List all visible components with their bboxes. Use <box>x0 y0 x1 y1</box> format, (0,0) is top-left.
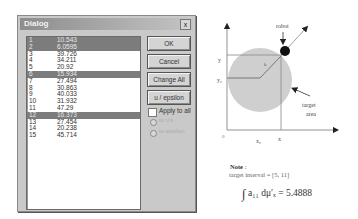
radio-to-epsilon[interactable] <box>150 130 157 137</box>
ok-button[interactable]: OK <box>147 36 191 51</box>
list-item[interactable]: 1327.454 <box>27 119 140 126</box>
target-area-diagram: robot target area y y₀ 0 x₀ x k <box>210 0 358 160</box>
area-label: area <box>306 111 316 117</box>
svg-text:x: x <box>278 136 281 142</box>
svg-text:x₀: x₀ <box>256 138 261 144</box>
target-interval-text: target interval = [5, 11] <box>229 171 289 178</box>
radio-to-epsilon-label: to epsilon <box>159 128 185 134</box>
list-item[interactable]: 830.863 <box>27 85 140 92</box>
list-item[interactable]: 1545.714 <box>27 132 140 139</box>
radio-to-u[interactable] <box>150 119 157 126</box>
robot-label: robot <box>276 23 289 29</box>
list-item[interactable]: 615.934 <box>27 71 140 78</box>
list-item[interactable]: 434.211 <box>27 57 140 64</box>
list-item[interactable]: 520.92 <box>27 64 140 71</box>
list-item[interactable]: 940.033 <box>27 91 140 98</box>
list-item[interactable]: 1420.238 <box>27 125 140 132</box>
target-label: target <box>302 102 316 108</box>
list-item[interactable]: 110.543 <box>27 37 140 44</box>
list-item[interactable]: 339.726 <box>27 51 140 58</box>
list-item[interactable]: 26.0595 <box>27 44 140 51</box>
dialog-title: Dialog <box>24 19 48 28</box>
svg-text:y₀: y₀ <box>217 77 222 83</box>
cancel-button[interactable]: Cancel <box>147 54 191 69</box>
list-item[interactable]: 727.494 <box>27 78 140 85</box>
u-epsilon-button[interactable]: u / epsilon <box>147 90 191 105</box>
note-heading: Note : <box>230 163 246 170</box>
robot-marker <box>280 46 290 56</box>
apply-to-all-label: Apply to all <box>159 107 191 114</box>
integral-formula: ∫ a₁₁ dμ′ₓ = 5.4888 <box>242 184 312 200</box>
target-area-circle <box>228 48 292 112</box>
title-bar[interactable]: Dialog x <box>20 18 193 30</box>
apply-to-all-checkbox[interactable] <box>148 108 157 117</box>
svg-text:0: 0 <box>222 134 225 139</box>
change-all-button[interactable]: Change All <box>147 72 191 87</box>
item-value: 45.714 <box>57 132 77 139</box>
list-item[interactable]: 1216.373 <box>27 112 140 119</box>
list-item[interactable]: 1031.932 <box>27 98 140 105</box>
radio-to-u-label: to u's <box>159 117 173 123</box>
values-listbox[interactable]: 110.54326.0595339.726434.211520.92615.93… <box>26 36 141 210</box>
close-button[interactable]: x <box>180 19 191 30</box>
dialog-window: Dialog x 110.54326.0595339.726434.211520… <box>17 15 196 212</box>
item-index: 15 <box>29 132 36 139</box>
list-item[interactable]: 1147.29 <box>27 105 140 112</box>
svg-text:y: y <box>218 57 221 63</box>
